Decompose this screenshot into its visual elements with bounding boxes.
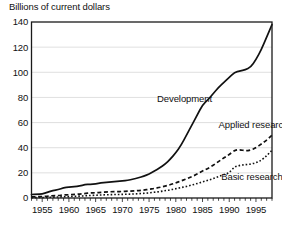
y-tick-label-100: 100 xyxy=(13,67,28,78)
x-tick-label-1980: 1980 xyxy=(166,204,186,215)
y-tick-label-140: 140 xyxy=(13,16,28,27)
y-tick-label-80: 80 xyxy=(18,92,28,103)
annotation-development: Development xyxy=(157,93,212,104)
y-tick-label-60: 60 xyxy=(18,117,28,128)
y-tick-labels-group: 020406080100120140 xyxy=(13,16,28,203)
series-line-development xyxy=(32,25,273,195)
y-tick-label-40: 40 xyxy=(18,142,28,153)
x-tick-label-1955: 1955 xyxy=(32,204,52,215)
x-tick-label-1975: 1975 xyxy=(139,204,159,215)
series-annotations-group: DevelopmentApplied researchBasic researc… xyxy=(157,93,282,182)
gridlines-group xyxy=(32,47,273,173)
y-tick-label-0: 0 xyxy=(23,192,28,203)
annotation-basic-research: Basic research xyxy=(221,171,282,182)
x-tick-labels-group: 195519601965197019751980198519901995 xyxy=(32,204,266,215)
annotation-applied-research: Applied research xyxy=(219,119,282,130)
x-tick-label-1990: 1990 xyxy=(219,204,239,215)
x-tick-label-1995: 1995 xyxy=(246,204,266,215)
x-tick-label-1985: 1985 xyxy=(192,204,212,215)
x-tick-label-1965: 1965 xyxy=(85,204,105,215)
y-tick-label-20: 20 xyxy=(18,167,28,178)
x-tick-label-1970: 1970 xyxy=(112,204,132,215)
x-tick-label-1960: 1960 xyxy=(59,204,79,215)
line-chart-plot: 020406080100120140 195519601965197019751… xyxy=(0,0,282,226)
chart-container: Billions of current dollars 020406080100… xyxy=(0,0,282,226)
y-tick-label-120: 120 xyxy=(13,42,28,53)
